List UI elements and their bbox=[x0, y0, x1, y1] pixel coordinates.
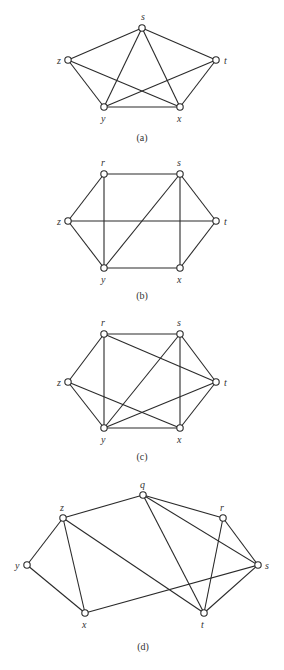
edge-r-z bbox=[68, 174, 104, 221]
edge-t-y bbox=[104, 60, 216, 107]
vertex-label-t: t bbox=[224, 55, 227, 66]
vertex-s bbox=[177, 331, 183, 337]
vertex-label-t: t bbox=[201, 619, 204, 630]
vertex-label-s: s bbox=[265, 560, 269, 571]
graph-d: qzrysxt(d) bbox=[14, 479, 269, 653]
vertex-r bbox=[101, 171, 107, 177]
edge-r-z bbox=[68, 334, 104, 382]
vertex-z bbox=[65, 57, 71, 63]
edge-z-x bbox=[68, 60, 180, 107]
edge-r-s bbox=[223, 518, 258, 565]
figure-caption: (d) bbox=[137, 641, 149, 653]
vertex-label-x: x bbox=[176, 274, 182, 285]
vertex-s bbox=[255, 562, 261, 568]
edge-q-t bbox=[143, 495, 204, 613]
vertex-label-y: y bbox=[100, 113, 106, 124]
vertex-label-z: z bbox=[56, 377, 61, 388]
edge-s-y bbox=[104, 28, 142, 107]
edge-q-z bbox=[63, 495, 143, 518]
vertex-label-r: r bbox=[220, 502, 224, 513]
edge-q-r bbox=[143, 495, 223, 518]
vertex-label-q: q bbox=[140, 479, 145, 490]
vertex-label-x: x bbox=[176, 113, 182, 124]
vertex-label-t: t bbox=[224, 377, 227, 388]
vertex-label-r: r bbox=[101, 157, 105, 168]
vertex-z bbox=[60, 515, 66, 521]
graph-a: sztyx(a) bbox=[56, 11, 227, 144]
edge-s-x bbox=[142, 28, 180, 107]
vertex-x bbox=[177, 425, 183, 431]
vertex-t bbox=[213, 379, 219, 385]
vertex-label-s: s bbox=[177, 157, 181, 168]
vertex-r bbox=[220, 515, 226, 521]
vertex-x bbox=[82, 610, 88, 616]
vertex-y bbox=[24, 562, 30, 568]
vertex-x bbox=[177, 265, 183, 271]
vertex-s bbox=[177, 171, 183, 177]
edge-z-y bbox=[27, 518, 63, 565]
vertex-label-r: r bbox=[101, 317, 105, 328]
vertex-label-s: s bbox=[141, 11, 145, 22]
vertex-label-x: x bbox=[176, 434, 182, 445]
figure-caption: (a) bbox=[136, 132, 147, 144]
vertex-label-z: z bbox=[56, 55, 61, 66]
edge-y-t bbox=[104, 382, 216, 428]
edge-q-s bbox=[143, 495, 258, 565]
figure-caption: (b) bbox=[136, 290, 148, 302]
vertex-s bbox=[139, 25, 145, 31]
edge-s-t bbox=[142, 28, 216, 60]
graph-figure-canvas: sztyx(a) rsztyx(b) rsztyx(c) qzrysxt(d) bbox=[0, 0, 284, 670]
vertex-label-z: z bbox=[59, 502, 64, 513]
vertex-label-z: z bbox=[56, 216, 61, 227]
vertex-x bbox=[177, 104, 183, 110]
edge-s-t bbox=[180, 174, 216, 221]
edge-s-z bbox=[68, 28, 142, 60]
vertex-z bbox=[65, 379, 71, 385]
graph-b: rsztyx(b) bbox=[56, 157, 227, 302]
figure-caption: (c) bbox=[136, 451, 147, 463]
vertex-label-s: s bbox=[177, 317, 181, 328]
vertex-label-y: y bbox=[100, 274, 106, 285]
edge-y-x bbox=[27, 565, 85, 613]
vertex-label-y: y bbox=[14, 560, 20, 571]
vertex-label-y: y bbox=[100, 434, 106, 445]
vertex-y bbox=[101, 104, 107, 110]
edge-z-t bbox=[63, 518, 204, 613]
vertex-t bbox=[213, 57, 219, 63]
edge-z-y bbox=[68, 221, 104, 268]
vertex-q bbox=[140, 492, 146, 498]
graph-c: rsztyx(c) bbox=[56, 317, 227, 463]
vertex-z bbox=[65, 218, 71, 224]
vertex-y bbox=[101, 265, 107, 271]
edge-z-x bbox=[63, 518, 85, 613]
edge-x-s bbox=[85, 565, 258, 613]
vertex-t bbox=[213, 218, 219, 224]
vertex-label-t: t bbox=[224, 216, 227, 227]
vertex-t bbox=[201, 610, 207, 616]
vertex-label-x: x bbox=[81, 619, 87, 630]
edge-x-t bbox=[180, 221, 216, 268]
edge-s-y bbox=[104, 334, 180, 428]
edge-z-x bbox=[68, 382, 180, 428]
vertex-y bbox=[101, 425, 107, 431]
vertex-r bbox=[101, 331, 107, 337]
